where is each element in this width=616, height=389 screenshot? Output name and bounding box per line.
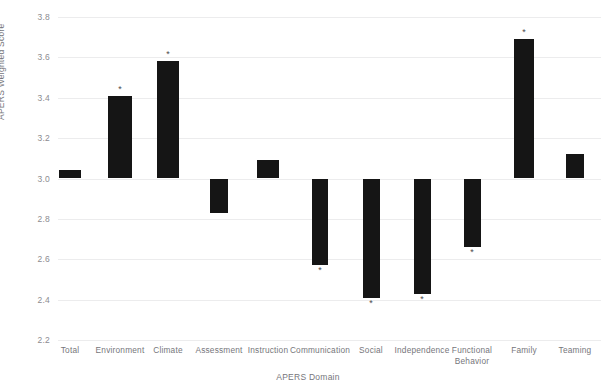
bar-9 bbox=[464, 179, 481, 248]
bar-10 bbox=[514, 39, 534, 178]
y-tick-label: 2.4 bbox=[10, 296, 50, 305]
significance-marker: * bbox=[416, 295, 428, 304]
bar-2 bbox=[108, 96, 132, 179]
y-tick-label: 3.8 bbox=[10, 13, 50, 22]
gridline bbox=[58, 179, 601, 180]
y-axis-title: APERS Weighted Score bbox=[0, 24, 6, 121]
significance-marker: * bbox=[466, 248, 478, 257]
bar-11 bbox=[566, 154, 584, 178]
y-tick-label: 3.2 bbox=[10, 134, 50, 143]
bar-7 bbox=[363, 179, 380, 298]
y-tick-label: 3.0 bbox=[10, 175, 50, 184]
y-tick-label: 2.2 bbox=[10, 336, 50, 345]
gridline bbox=[58, 219, 601, 220]
plot-area: ******* bbox=[58, 17, 601, 340]
cropped-title-residue bbox=[0, 0, 616, 5]
bar-1 bbox=[59, 170, 81, 178]
bar-4 bbox=[210, 179, 228, 213]
bar-5 bbox=[257, 160, 279, 178]
y-tick-label: 2.8 bbox=[10, 215, 50, 224]
y-tick-label: 3.6 bbox=[10, 53, 50, 62]
bar-8 bbox=[414, 179, 431, 294]
bar-6 bbox=[312, 179, 328, 266]
significance-marker: * bbox=[314, 266, 326, 275]
y-tick-label: 2.6 bbox=[10, 255, 50, 264]
gridline bbox=[58, 259, 601, 260]
gridline bbox=[58, 340, 601, 341]
significance-marker: * bbox=[162, 50, 174, 59]
significance-marker: * bbox=[114, 85, 126, 94]
gridline bbox=[58, 300, 601, 301]
x-tick-label: Teaming bbox=[535, 345, 615, 356]
significance-marker: * bbox=[518, 28, 530, 37]
y-tick-label: 3.4 bbox=[10, 94, 50, 103]
x-axis-title: APERS Domain bbox=[0, 372, 616, 382]
bar-chart: APERS Weighted Score APERS Domain 3.83.6… bbox=[0, 0, 616, 389]
gridline bbox=[58, 17, 601, 18]
significance-marker: * bbox=[365, 299, 377, 308]
bar-3 bbox=[157, 61, 179, 178]
